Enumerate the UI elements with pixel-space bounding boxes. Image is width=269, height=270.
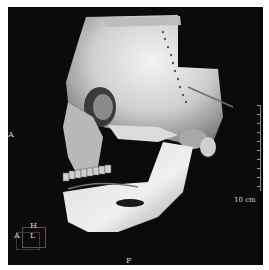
cube-label-head: H — [30, 222, 37, 230]
scale-bar-label: 10 cm — [234, 196, 256, 204]
scale-ruler — [257, 105, 261, 191]
orientation-label-foot: F — [126, 257, 132, 265]
cube-label-left: L — [30, 232, 35, 240]
3d-render-viewport[interactable]: A F 10 cm H A L — [8, 7, 263, 265]
orientation-label-anterior: A — [8, 131, 14, 139]
orientation-cube[interactable]: H A L — [14, 222, 46, 248]
cube-label-anterior: A — [14, 232, 20, 240]
skull-3d-rendering[interactable] — [8, 7, 263, 265]
